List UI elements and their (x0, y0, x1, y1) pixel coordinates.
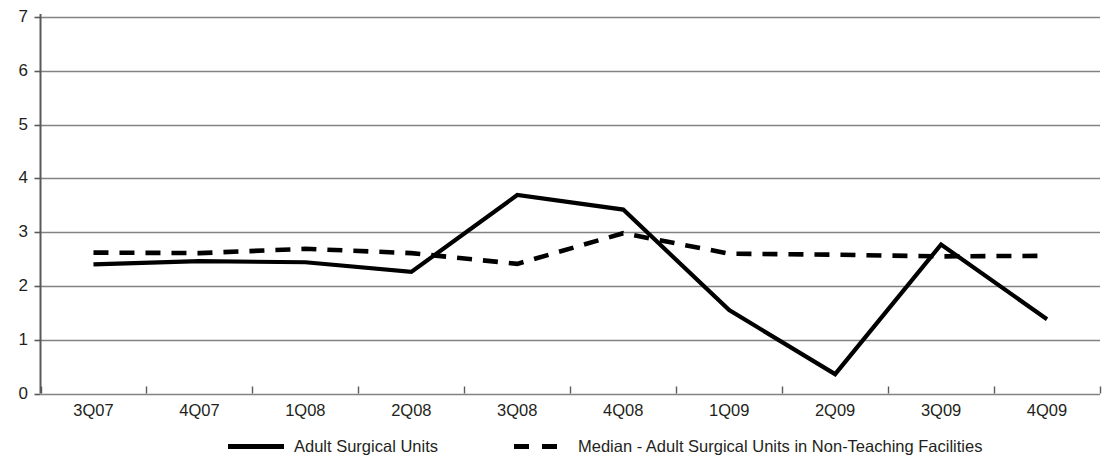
y-axis-label-5: 5 (2, 116, 28, 133)
data-series-group (93, 195, 1047, 374)
chart-legend: Adult Surgical Units Median - Adult Surg… (0, 435, 1112, 461)
series-line-1 (93, 233, 1047, 264)
chart-plot-area (0, 0, 1112, 467)
x-axis-label-4q08: 4Q08 (570, 401, 676, 419)
legend-dashed-line-icon (512, 439, 568, 453)
x-axis-label-2q09: 2Q09 (782, 401, 888, 419)
x-axis-label-4q09: 4Q09 (994, 401, 1100, 419)
legend-item-median-non-teaching: Median - Adult Surgical Units in Non-Tea… (512, 435, 982, 457)
legend-item-adult-surgical-units: Adult Surgical Units (228, 435, 438, 457)
x-axis-label-2q08: 2Q08 (358, 401, 464, 419)
y-axis-label-4: 4 (2, 169, 28, 186)
series-line-0 (93, 195, 1047, 374)
y-axis-label-6: 6 (2, 62, 28, 79)
x-axis-label-4q07: 4Q07 (146, 401, 252, 419)
x-axis-label-3q08: 3Q08 (464, 401, 570, 419)
line-chart: 76543210 3Q074Q071Q082Q083Q084Q081Q092Q0… (0, 0, 1112, 467)
legend-solid-line-icon (228, 439, 284, 453)
y-axis-label-1: 1 (2, 331, 28, 348)
gridlines (41, 18, 1101, 395)
x-axis-ticks (42, 387, 1101, 394)
y-axis-label-7: 7 (2, 8, 28, 25)
x-axis-label-3q07: 3Q07 (41, 401, 147, 419)
x-axis-label-1q09: 1Q09 (676, 401, 782, 419)
x-axis-label-1q08: 1Q08 (252, 401, 358, 419)
y-axis-label-2: 2 (2, 277, 28, 294)
y-axis-label-0: 0 (2, 385, 28, 402)
x-axis-label-3q09: 3Q09 (888, 401, 994, 419)
y-axis-label-3: 3 (2, 223, 28, 240)
legend-label-adult-surgical-units: Adult Surgical Units (294, 437, 438, 455)
legend-label-median-non-teaching: Median - Adult Surgical Units in Non-Tea… (578, 437, 982, 455)
